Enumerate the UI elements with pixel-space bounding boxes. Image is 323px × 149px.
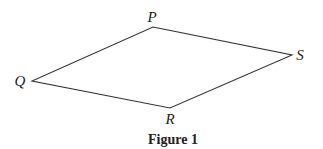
quadrilateral-PSRQ [32,27,292,108]
figure-caption: Figure 1 [148,132,198,147]
vertex-label-r: R [164,111,174,127]
vertex-label-s: S [296,47,304,63]
figure-1: PSRQ Figure 1 [0,0,323,149]
quadrilateral-diagram: PSRQ Figure 1 [0,0,323,149]
vertex-label-p: P [146,9,156,25]
vertex-label-q: Q [15,73,26,89]
